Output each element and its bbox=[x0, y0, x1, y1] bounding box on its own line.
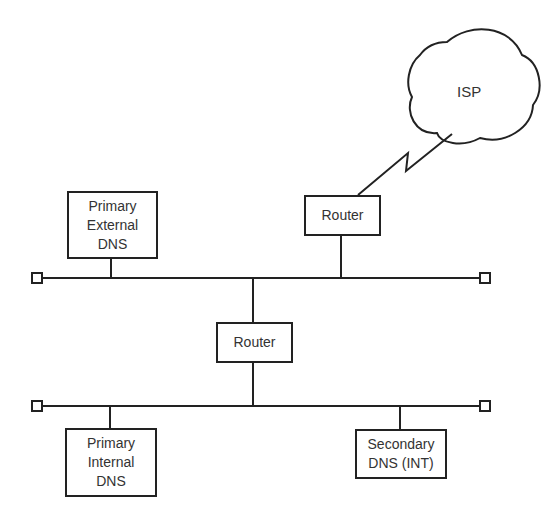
node-label-line: Primary bbox=[87, 197, 138, 216]
node-label-line: External bbox=[87, 216, 138, 235]
node-label-line: DNS bbox=[87, 472, 135, 491]
internal-bus-terminator-left bbox=[32, 401, 42, 411]
isp-label: ISP bbox=[457, 83, 481, 100]
node-label-line: DNS bbox=[87, 235, 138, 254]
primary-external-dns-node: Primary External DNS bbox=[67, 191, 158, 259]
core-router-node: Router bbox=[216, 322, 293, 363]
node-label-line: DNS (INT) bbox=[368, 454, 435, 473]
node-label-line: Primary bbox=[87, 434, 135, 453]
external-bus-terminator-right bbox=[480, 273, 490, 283]
external-bus-terminator-left bbox=[32, 273, 42, 283]
node-label-line: Router bbox=[321, 206, 363, 225]
internal-bus-terminator-right bbox=[480, 401, 490, 411]
node-label-line: Internal bbox=[87, 453, 135, 472]
wan-link-lightning bbox=[358, 134, 452, 195]
node-label-line: Secondary bbox=[368, 435, 435, 454]
edge-router-node: Router bbox=[304, 195, 381, 236]
primary-internal-dns-node: Primary Internal DNS bbox=[65, 428, 157, 497]
secondary-dns-node: Secondary DNS (INT) bbox=[355, 429, 447, 479]
node-label-line: Router bbox=[233, 333, 275, 352]
